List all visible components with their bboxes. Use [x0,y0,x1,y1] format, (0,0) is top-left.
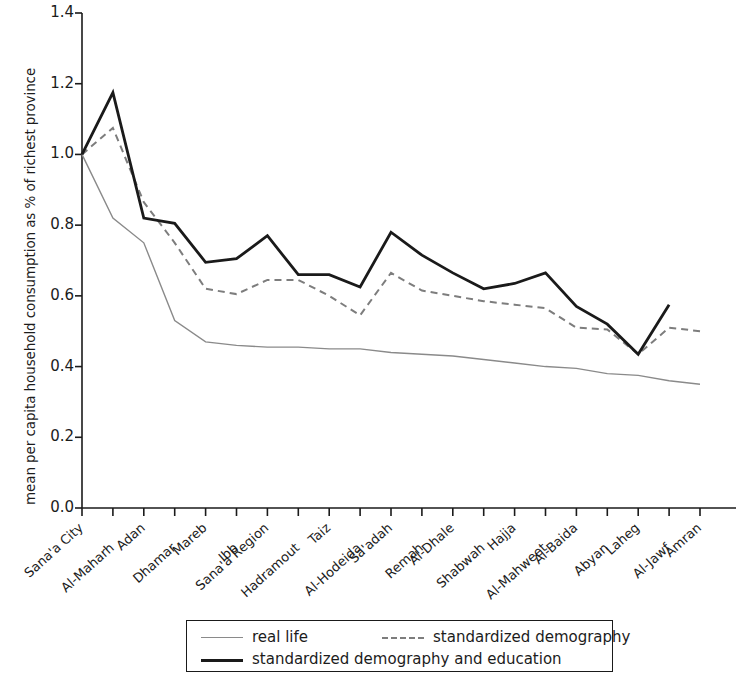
legend-line-dashed-icon [382,631,424,643]
x-axis-tick-label: Mareb [170,520,210,558]
legend-row-1: real life standardized demography [201,628,630,646]
legend-label-standardized-demography-education: standardized demography and education [252,650,562,668]
legend-entry-standardized-demography-education: standardized demography and education [201,650,562,668]
x-axis-tick-label: Taiz [305,520,333,547]
legend-label-real-life: real life [252,628,308,646]
x-axis-tick-label: Laheg [603,520,643,558]
legend-label-standardized-demography: standardized demography [433,628,630,646]
series-line-2 [82,93,669,355]
legend-entry-real-life: real life [201,628,308,646]
x-axis-tick-label: Adan [113,520,148,553]
legend-line-solid-thin-icon [201,631,243,643]
series-line-0 [82,154,700,384]
x-axis-tick-label: Amran [662,520,704,560]
legend-line-solid-thick-icon [201,653,243,665]
chart-figure: mean per capita household consumption as… [0,0,736,675]
legend-entry-standardized-demography: standardized demography [382,628,630,646]
legend-row-2: standardized demography and education [201,650,562,668]
x-axis-tick-labels: Sana'a CityAl-MaharhAdanDhamarMarebIbbSa… [0,508,736,618]
chart-legend: real life standardized demography standa… [186,620,613,672]
x-axis-tick-label: Shabwah [433,540,487,591]
x-axis-tick-label: Hajja [484,520,519,553]
